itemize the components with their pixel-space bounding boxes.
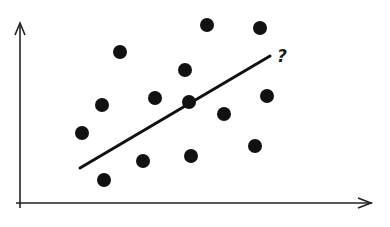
data-point	[260, 89, 274, 103]
scatter-plot: ?	[0, 0, 390, 227]
data-point	[95, 98, 109, 112]
data-point	[97, 173, 111, 187]
data-point	[182, 95, 196, 109]
data-point	[148, 91, 162, 105]
axes	[15, 23, 372, 208]
data-points	[75, 18, 274, 187]
data-point	[113, 45, 127, 59]
question-mark-annotation: ?	[277, 46, 287, 66]
data-point	[184, 149, 198, 163]
data-point	[178, 63, 192, 77]
data-point	[248, 139, 262, 153]
trend-line	[80, 56, 270, 168]
data-point	[75, 126, 89, 140]
data-point	[136, 154, 150, 168]
data-point	[253, 21, 267, 35]
data-point	[200, 18, 214, 32]
data-point	[217, 107, 231, 121]
annotations: ?	[277, 46, 287, 66]
